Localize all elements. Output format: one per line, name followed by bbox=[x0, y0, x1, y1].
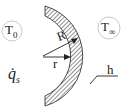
radius-label: r bbox=[53, 57, 57, 70]
radius-arrowhead bbox=[64, 54, 71, 60]
heat-generation-label: q̇s bbox=[8, 66, 20, 85]
heat-transfer-coefficient-label: h bbox=[107, 63, 114, 76]
spherical-shell-diagram bbox=[0, 0, 127, 111]
outer-temperature-label: T∞ bbox=[101, 20, 115, 37]
inner-temperature-label: T0 bbox=[5, 23, 17, 40]
convection-leader-line bbox=[90, 76, 118, 84]
shell-wall bbox=[45, 6, 83, 106]
